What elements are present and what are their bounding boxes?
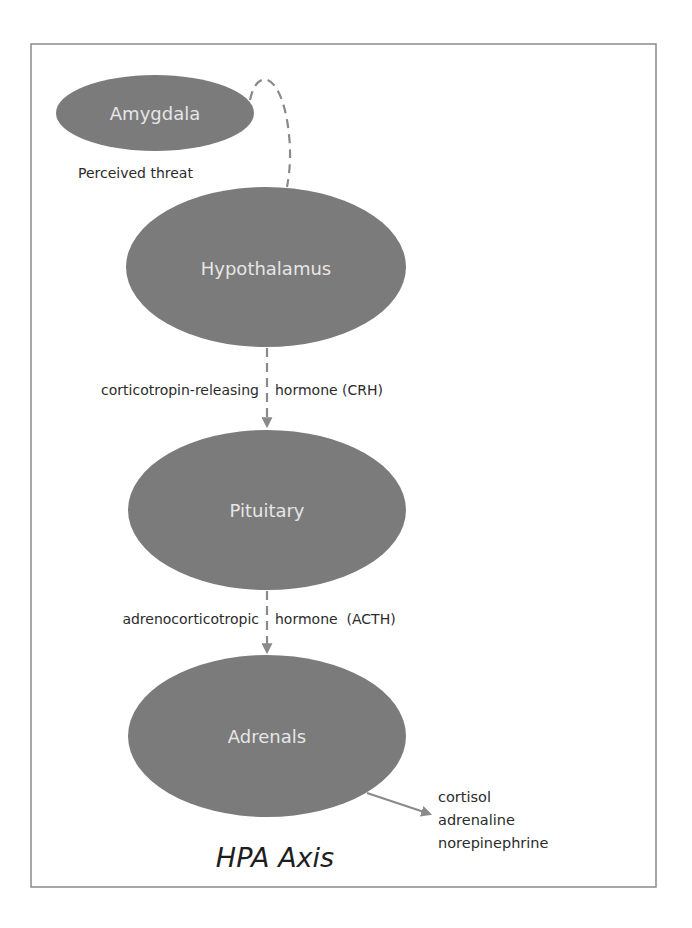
amygdala-label: Amygdala	[110, 103, 200, 124]
node-adrenals: Adrenals	[128, 655, 406, 817]
node-pituitary: Pituitary	[128, 430, 406, 590]
acth-label-left: adrenocorticotropic	[122, 611, 259, 627]
adrenals-label: Adrenals	[228, 726, 306, 747]
crh-label-left: corticotropin-releasing	[101, 382, 259, 398]
output-norepinephrine: norepinephrine	[438, 835, 549, 851]
hypothalamus-label: Hypothalamus	[201, 258, 331, 279]
output-cortisol: cortisol	[438, 789, 491, 805]
acth-label-right: hormone (ACTH)	[275, 611, 396, 627]
crh-label-right: hormone (CRH)	[275, 382, 383, 398]
diagram-title: HPA Axis	[216, 842, 334, 873]
pituitary-label: Pituitary	[229, 500, 304, 521]
perceived-threat-label: Perceived threat	[78, 165, 193, 181]
output-adrenaline: adrenaline	[438, 812, 515, 828]
hpa-axis-diagram: Amygdala Perceived threat Hypothalamus c…	[0, 0, 692, 928]
node-amygdala: Amygdala	[56, 75, 254, 151]
node-hypothalamus: Hypothalamus	[126, 187, 406, 347]
